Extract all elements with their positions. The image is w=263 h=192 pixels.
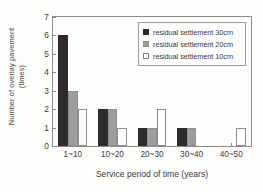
chart-legend: residual settlement 30cmresidual settlem… [138, 22, 246, 66]
bar-1-10-series1 [68, 91, 78, 146]
legend-label: residual settlement 20cm [153, 40, 233, 49]
legend-swatch-icon [143, 53, 149, 59]
y-axis-tick-label: 6 [35, 30, 49, 40]
y-axis-tick-label: 4 [35, 67, 49, 77]
legend-swatch-icon [143, 41, 149, 47]
y-axis-tick-labels: 01234567 [32, 0, 49, 192]
x-axis-tick [112, 143, 113, 146]
bar-30-40-series0 [177, 128, 187, 146]
x-axis-tick-label: 10~20 [101, 150, 124, 159]
legend-item: residual settlement 20cm [143, 38, 241, 50]
y-axis-tick [53, 35, 56, 36]
y-axis-tick-label: 3 [35, 86, 49, 96]
y-axis-tick [53, 54, 56, 55]
y-axis-title-line1: Number of overlay pavement [8, 27, 17, 125]
x-axis-title: Service period of time (years) [52, 169, 252, 179]
x-axis-tick-label: 1~10 [64, 150, 82, 159]
y-axis-tick-label: 5 [35, 49, 49, 59]
bar-1-10-series2 [78, 109, 88, 146]
legend-label: residual settlement 10cm [153, 52, 233, 61]
y-axis-tick-label: 2 [35, 104, 49, 114]
bar-10-20-series0 [98, 109, 108, 146]
legend-item: residual settlement 30cm [143, 26, 241, 38]
legend-swatch-icon [143, 29, 149, 35]
bar-40-50-series2 [236, 128, 246, 146]
y-axis-tick [53, 109, 56, 110]
x-axis-tick [152, 143, 153, 146]
x-axis-tick-label: 40~50 [220, 150, 243, 159]
y-axis-tick [53, 91, 56, 92]
y-axis-tick [53, 17, 56, 18]
bar-20-30-series0 [138, 128, 148, 146]
chart-figure: Number of overlay pavement (times) 01234… [0, 0, 263, 192]
y-axis-tick-label: 7 [35, 12, 49, 22]
x-axis-tick-label: 20~30 [141, 150, 164, 159]
x-axis-tick [192, 143, 193, 146]
y-axis-tick [53, 128, 56, 129]
x-axis-tick-labels: 1~1010~2020~3030~4040~50 [52, 150, 252, 164]
legend-item: residual settlement 10cm [143, 50, 241, 62]
y-axis-tick [53, 146, 56, 147]
bar-10-20-series1 [108, 109, 118, 146]
legend-label: residual settlement 30cm [153, 28, 233, 37]
bar-10-20-series2 [117, 128, 127, 146]
y-axis-tick-label: 1 [35, 123, 49, 133]
y-axis-title: Number of overlay pavement (times) [0, 0, 34, 152]
x-axis-tick [231, 143, 232, 146]
y-axis-title-line2: (times) [17, 27, 27, 125]
y-axis-tick-label: 0 [35, 141, 49, 151]
x-axis-tick [73, 143, 74, 146]
x-axis-tick-label: 30~40 [180, 150, 203, 159]
y-axis-tick [53, 72, 56, 73]
bar-1-10-series0 [58, 35, 68, 146]
bar-20-30-series2 [157, 109, 167, 146]
